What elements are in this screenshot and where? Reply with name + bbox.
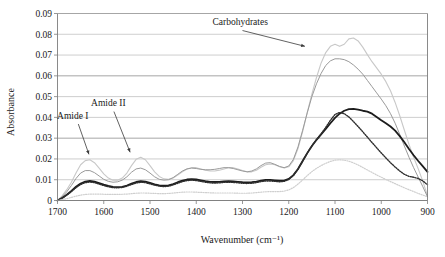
x-axis-title: Wavenumber (cm⁻¹)	[201, 234, 284, 246]
y-tick-label-6: 0.06	[35, 71, 52, 81]
annotation-label-2: Carbohydrates	[212, 17, 268, 27]
x-tick-label-1: 1600	[94, 207, 113, 217]
x-tick-label-8: 900	[420, 207, 435, 217]
y-tick-label-5: 0.05	[35, 92, 52, 102]
y-tick-label-8: 0.08	[35, 30, 52, 40]
series-layer	[58, 38, 428, 200]
x-tick-label-7: 1000	[372, 207, 391, 217]
y-tick-label-2: 0.02	[35, 154, 52, 164]
x-tick-label-3: 1400	[187, 207, 206, 217]
ftir-spectrum-figure: 00.010.020.030.040.050.060.070.080.09170…	[0, 0, 445, 257]
annotations-layer: Amide IAmide IICarbohydrates	[57, 17, 305, 154]
y-tick-label-4: 0.04	[35, 113, 52, 123]
x-tick-label-2: 1500	[141, 207, 160, 217]
chart-canvas: 00.010.020.030.040.050.060.070.080.09170…	[0, 0, 445, 257]
y-tick-label-7: 0.07	[35, 50, 52, 60]
y-axis-title: Absorbance	[5, 88, 16, 136]
annotation-arrow-0	[78, 124, 89, 154]
axes-layer	[54, 14, 428, 205]
series-spectrum-dark-dotted	[58, 112, 428, 200]
annotation-arrowhead-0	[86, 150, 89, 154]
y-tick-label-9: 0.09	[35, 9, 52, 19]
annotation-arrow-2	[243, 31, 305, 47]
y-tick-label-3: 0.03	[35, 133, 52, 143]
annotation-label-1: Amide II	[91, 98, 126, 108]
y-tick-label-1: 0.01	[35, 175, 52, 185]
x-tick-label-0: 1700	[48, 207, 67, 217]
series-spectrum-medium-gray	[58, 59, 428, 201]
series-spectrum-light-gray	[58, 38, 428, 200]
x-tick-label-4: 1300	[233, 207, 252, 217]
x-tick-label-5: 1200	[279, 207, 298, 217]
tick-labels-layer: 00.010.020.030.040.050.060.070.080.09170…	[35, 9, 435, 217]
annotation-label-0: Amide I	[57, 111, 88, 121]
x-tick-label-6: 1100	[326, 207, 345, 217]
series-spectrum-bold-black	[58, 109, 428, 201]
y-tick-label-0: 0	[47, 196, 52, 206]
annotation-arrowhead-1	[127, 148, 130, 152]
